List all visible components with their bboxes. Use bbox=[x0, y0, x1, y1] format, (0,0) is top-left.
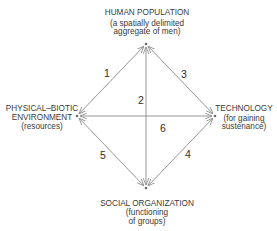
node-top-title: HUMAN POPULATION bbox=[105, 8, 190, 17]
node-physical-biotic-environment: PHYSICAL–BIOTIC ENVIRONMENT (resources) bbox=[6, 104, 78, 131]
node-dot-top bbox=[145, 43, 148, 46]
edge-arrow-3 bbox=[148, 46, 213, 113]
edge-arrow-4 bbox=[148, 118, 213, 185]
edge-label-2: 2 bbox=[138, 94, 144, 106]
node-bottom-title: SOCIAL ORGANIZATION bbox=[100, 199, 194, 208]
node-dot-bottom bbox=[145, 187, 148, 190]
edge-label-5: 5 bbox=[100, 149, 106, 161]
node-left-desc: (resources) bbox=[21, 122, 63, 131]
edge-label-1: 1 bbox=[104, 67, 110, 79]
node-human-population: HUMAN POPULATION (a spatially delimited … bbox=[105, 8, 190, 36]
node-technology: TECHNOLOGY (for gaining sustenance) bbox=[215, 104, 273, 131]
edge-label-3: 3 bbox=[181, 68, 187, 80]
node-right-desc-2: sustenance) bbox=[222, 122, 267, 131]
node-dot-right bbox=[214, 115, 217, 118]
edge-arrow-5 bbox=[79, 118, 144, 185]
edge-label-6: 6 bbox=[160, 122, 166, 134]
node-right-title: TECHNOLOGY bbox=[215, 104, 273, 113]
node-bottom-desc-2: of groups) bbox=[129, 217, 166, 226]
node-social-organization: SOCIAL ORGANIZATION (functioning of grou… bbox=[100, 199, 194, 226]
edges-group bbox=[79, 46, 213, 185]
node-left-title-1: PHYSICAL–BIOTIC bbox=[6, 104, 78, 113]
ecological-complex-diagram: HUMAN POPULATION (a spatially delimited … bbox=[0, 0, 277, 231]
edge-label-4: 4 bbox=[185, 148, 191, 160]
edge-arrow-1 bbox=[79, 46, 144, 113]
node-top-desc-2: aggregate of men) bbox=[114, 27, 181, 36]
node-dot-left bbox=[76, 115, 79, 118]
